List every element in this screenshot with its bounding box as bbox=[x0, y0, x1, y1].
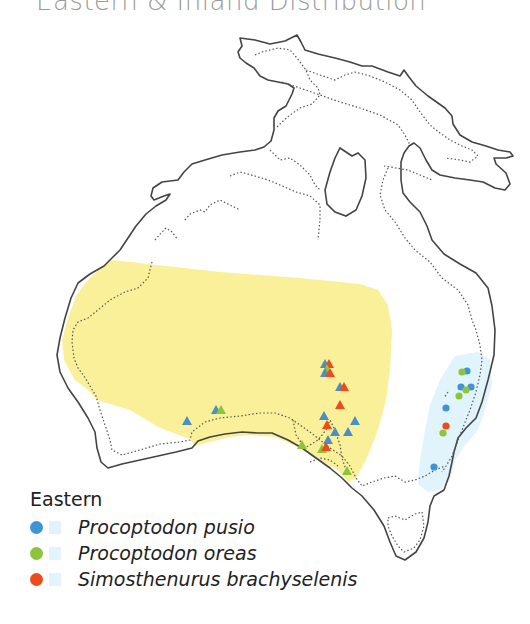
circle-marker-pusio[interactable] bbox=[442, 404, 449, 411]
eastern-swatch-icon bbox=[49, 573, 61, 586]
legend-label: Procoptodon pusio bbox=[78, 516, 255, 538]
legend-heading: Eastern bbox=[30, 488, 357, 510]
lake-outline bbox=[325, 148, 366, 216]
legend: Eastern Procoptodon pusio Procoptodon or… bbox=[30, 488, 357, 592]
eastern-swatch-icon bbox=[49, 521, 61, 534]
circle-marker-oreas[interactable] bbox=[455, 392, 462, 399]
legend-label: Simosthenurus brachyselenis bbox=[78, 568, 357, 590]
circle-marker-brachyselenis[interactable] bbox=[442, 422, 449, 429]
red-dot-icon bbox=[30, 573, 43, 586]
blue-dot-icon bbox=[30, 521, 43, 534]
circle-marker-oreas[interactable] bbox=[458, 368, 465, 375]
eastern-swatch-icon bbox=[49, 547, 61, 560]
legend-item-pusio: Procoptodon pusio bbox=[30, 514, 357, 540]
legend-label: Procoptodon oreas bbox=[78, 542, 257, 564]
green-dot-icon bbox=[30, 547, 43, 560]
eastern-region bbox=[418, 352, 492, 492]
circle-marker-oreas[interactable] bbox=[439, 429, 446, 436]
circle-marker-pusio[interactable] bbox=[430, 463, 437, 470]
legend-item-oreas: Procoptodon oreas bbox=[30, 540, 357, 566]
legend-item-brachyselenis: Simosthenurus brachyselenis bbox=[30, 566, 357, 592]
circle-marker-oreas[interactable] bbox=[462, 386, 469, 393]
